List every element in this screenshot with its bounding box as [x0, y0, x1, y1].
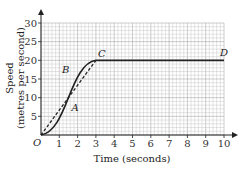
- point-label-a: A: [70, 102, 78, 113]
- point-labels: ABCD: [61, 47, 228, 113]
- y-tick-label: 20: [24, 55, 37, 66]
- y-tick-label: 5: [31, 111, 37, 122]
- x-tick-label: 1: [56, 138, 62, 149]
- tick-labels: 1234567891051015202530: [24, 18, 230, 150]
- point-label-c: C: [98, 48, 106, 59]
- y-axis-label-units: (metres per second): [15, 27, 26, 129]
- point-label-b: B: [61, 64, 69, 75]
- x-tick-label: 5: [129, 138, 135, 149]
- x-tick-label: 3: [93, 138, 99, 149]
- y-tick-label: 30: [24, 18, 37, 29]
- speed-time-graph: 1234567891051015202530 ABCD Time (second…: [0, 0, 240, 170]
- grid: [41, 23, 224, 135]
- origin-label: O: [33, 137, 41, 148]
- y-tick-label: 25: [24, 36, 37, 47]
- y-tick-label: 15: [24, 74, 37, 85]
- y-axis-label: Speed: [4, 62, 15, 94]
- x-tick-label: 8: [184, 138, 190, 149]
- point-label-d: D: [219, 47, 228, 58]
- x-axis-label: Time (seconds): [94, 153, 171, 164]
- x-tick-label: 4: [111, 138, 117, 149]
- x-tick-label: 2: [74, 138, 80, 149]
- x-tick-label: 10: [218, 138, 231, 149]
- x-tick-label: 7: [166, 138, 172, 149]
- x-tick-label: 6: [148, 138, 154, 149]
- x-tick-label: 9: [203, 138, 209, 149]
- y-tick-label: 10: [24, 92, 37, 103]
